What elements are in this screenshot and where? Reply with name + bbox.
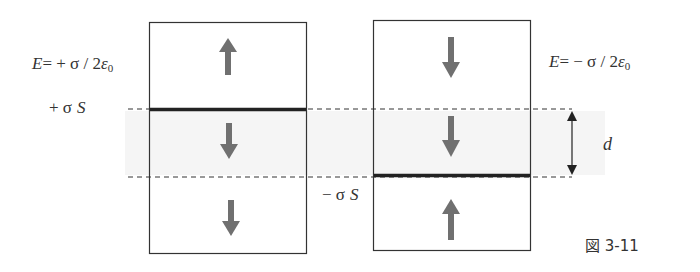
right-field-label: E= − σ / 2ε0 [548,52,631,72]
separation-label: d [603,134,613,154]
up-arrow-icon [442,199,460,240]
up-arrow-icon [219,38,237,75]
between-plates-band [125,111,605,175]
capacitor-field-diagram: d E= + σ / 2ε0 + σS E= − σ / 2ε0 − σS 図 … [0,0,700,272]
down-arrow-icon [442,37,460,78]
negative-charge-label: − σS [322,185,359,204]
down-arrow-icon [222,200,240,236]
figure-caption: 図 3-11 [585,237,639,255]
left-field-label: E= + σ / 2ε0 [31,54,114,74]
positive-charge-label: + σS [49,98,86,117]
